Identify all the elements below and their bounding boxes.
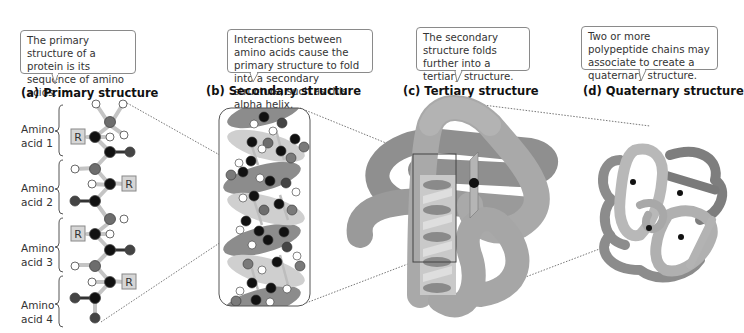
tertiary-metal-center	[469, 178, 479, 188]
callout-pointers	[52, 70, 646, 84]
r-label: R	[74, 228, 82, 241]
r-label: R	[125, 276, 133, 289]
r-label: R	[125, 178, 133, 191]
primary-chain: R R R R	[70, 100, 136, 323]
quaternary-complex	[603, 149, 722, 277]
tertiary-ribbon	[360, 108, 546, 305]
r-label: R	[74, 131, 82, 144]
alpha-helix	[219, 92, 310, 325]
amino-acid-braces	[55, 105, 63, 327]
